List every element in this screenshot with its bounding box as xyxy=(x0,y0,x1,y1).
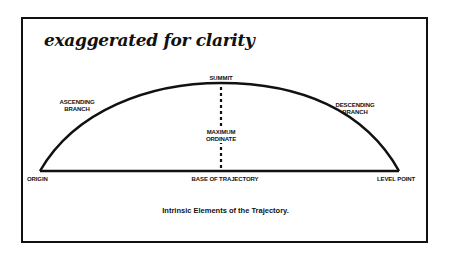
trajectory-diagram xyxy=(0,0,451,255)
trajectory-arc xyxy=(40,83,399,171)
maximum-ordinate-label-line2: ORDINATE xyxy=(199,136,243,143)
level-point-label: LEVEL POINT xyxy=(377,176,425,183)
origin-label: ORIGIN xyxy=(27,176,57,183)
ascending-branch-label-line1: ASCENDING xyxy=(52,99,102,106)
descending-branch-label: DESCENDING BRANCH xyxy=(330,102,380,116)
maximum-ordinate-label: MAXIMUM ORDINATE xyxy=(199,129,243,143)
descending-branch-label-line2: BRANCH xyxy=(330,109,380,116)
base-of-trajectory-label: BASE OF TRAJECTORY xyxy=(180,176,270,183)
descending-branch-label-line1: DESCENDING xyxy=(330,102,380,109)
figure-caption: Intrinsic Elements of the Trajectory. xyxy=(0,206,451,215)
maximum-ordinate-label-line1: MAXIMUM xyxy=(199,129,243,136)
ascending-branch-label: ASCENDING BRANCH xyxy=(52,99,102,113)
ascending-branch-label-line2: BRANCH xyxy=(52,106,102,113)
summit-label: SUMMIT xyxy=(203,75,239,82)
